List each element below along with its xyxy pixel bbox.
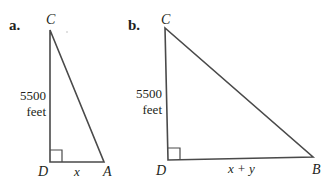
triangle-a: [50, 30, 104, 162]
side-length-value-a: 5500: [2, 88, 46, 104]
vertex-label-c-b: C: [161, 13, 170, 27]
triangles-diagram: [0, 0, 332, 186]
vertex-label-c-a: C: [46, 13, 55, 27]
part-label-a: a.: [9, 18, 20, 33]
right-angle-marker-b: [168, 148, 180, 160]
side-length-label-a: 5500 feet: [2, 88, 46, 120]
triangle-a-outline: [50, 30, 104, 162]
base-label-b: x + y: [228, 162, 255, 175]
base-label-a: x: [74, 165, 80, 178]
vertex-label-a: A: [103, 165, 112, 179]
triangle-b: [165, 28, 313, 160]
side-length-value-b: 5500: [118, 86, 162, 102]
vertex-label-d-b: D: [156, 164, 166, 178]
side-length-label-b: 5500 feet: [118, 86, 162, 118]
vertex-label-d-a: D: [38, 165, 48, 179]
stray-mark: [66, 31, 68, 33]
part-label-b: b.: [128, 18, 140, 33]
right-angle-marker-a: [50, 150, 62, 162]
vertex-label-b: B: [312, 163, 321, 177]
side-length-unit-b: feet: [118, 102, 162, 118]
triangle-b-outline: [165, 28, 313, 160]
side-length-unit-a: feet: [2, 104, 46, 120]
